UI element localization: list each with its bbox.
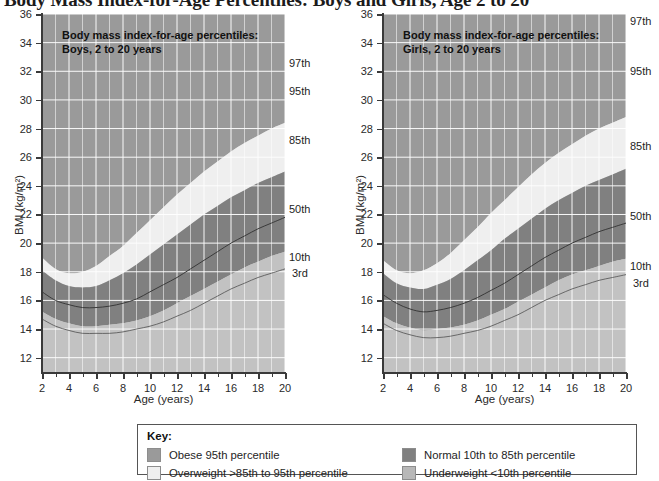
x-tick bbox=[56, 373, 58, 377]
y-tick bbox=[36, 100, 42, 102]
y-tick bbox=[377, 300, 383, 302]
y-tick-label: 34 bbox=[4, 38, 32, 49]
y-tick bbox=[36, 157, 42, 159]
x-tick bbox=[383, 373, 385, 379]
x-tick bbox=[245, 373, 247, 377]
x-tick bbox=[437, 373, 439, 379]
x-tick bbox=[424, 373, 426, 377]
y-tick-label: 32 bbox=[4, 66, 32, 77]
x-tick bbox=[545, 373, 547, 379]
x-tick bbox=[177, 373, 179, 379]
y-tick bbox=[36, 329, 42, 331]
y-tick-label: 18 bbox=[345, 267, 373, 278]
x-tick bbox=[505, 373, 507, 377]
x-tick bbox=[110, 373, 112, 377]
y-tick bbox=[377, 329, 383, 331]
x-tick bbox=[150, 373, 152, 379]
legend-swatch-obese bbox=[147, 448, 161, 462]
legend-label-obese: Obese 95th percentile bbox=[169, 449, 280, 461]
plot-caption-girls: Body mass index-for-age percentiles: Gir… bbox=[403, 28, 599, 56]
legend-label-normal: Normal 10th to 85th percentile bbox=[424, 449, 575, 461]
x-tick bbox=[532, 373, 534, 377]
x-axis-title-boys: Age (years) bbox=[42, 393, 285, 405]
percentile-label-girls-85th: 85th bbox=[630, 141, 651, 152]
x-tick bbox=[42, 373, 44, 379]
percentile-label-boys-3rd: 3rd bbox=[292, 268, 308, 279]
y-tick bbox=[377, 71, 383, 73]
y-tick-label: 12 bbox=[4, 353, 32, 364]
percentile-label-boys-95th: 95th bbox=[289, 86, 310, 97]
y-tick bbox=[377, 214, 383, 216]
chart-panel-boys: 1214161820222426283032343624681012141618… bbox=[0, 0, 330, 410]
y-axis-title-boys: BMI (kg/m²) bbox=[13, 175, 25, 235]
y-tick bbox=[36, 358, 42, 360]
y-tick-label: 30 bbox=[345, 95, 373, 106]
y-tick bbox=[377, 14, 383, 16]
x-tick bbox=[613, 373, 615, 377]
percentile-label-girls-50th: 50th bbox=[630, 211, 651, 222]
x-tick bbox=[164, 373, 166, 377]
plot-area-boys bbox=[42, 14, 285, 372]
x-tick bbox=[272, 373, 274, 377]
y-tick bbox=[377, 358, 383, 360]
y-tick bbox=[36, 43, 42, 45]
y-tick-label: 30 bbox=[4, 95, 32, 106]
x-tick bbox=[123, 373, 125, 379]
y-tick bbox=[36, 14, 42, 16]
y-tick bbox=[377, 186, 383, 188]
y-tick-label: 32 bbox=[345, 66, 373, 77]
x-tick bbox=[518, 373, 520, 379]
y-tick-label: 34 bbox=[345, 38, 373, 49]
percentile-label-boys-50th: 50th bbox=[289, 204, 310, 215]
chart-panel-girls: 1214161820222426283032343624681012141618… bbox=[329, 0, 659, 410]
x-tick bbox=[464, 373, 466, 379]
percentile-label-girls-97th: 97th bbox=[630, 16, 651, 27]
percentile-label-girls-10th: 10th bbox=[630, 261, 651, 272]
y-tick bbox=[36, 243, 42, 245]
percentile-label-boys-10th: 10th bbox=[289, 252, 310, 263]
legend-swatch-normal bbox=[402, 448, 416, 462]
y-tick-label: 26 bbox=[4, 152, 32, 163]
y-tick bbox=[36, 129, 42, 131]
y-tick bbox=[377, 272, 383, 274]
x-tick bbox=[96, 373, 98, 379]
y-axis-line-boys bbox=[41, 13, 43, 373]
y-tick bbox=[377, 100, 383, 102]
x-tick bbox=[258, 373, 260, 379]
x-tick bbox=[218, 373, 220, 377]
y-tick-label: 28 bbox=[4, 124, 32, 135]
y-tick-label: 18 bbox=[4, 267, 32, 278]
x-axis-title-girls: Age (years) bbox=[383, 393, 626, 405]
y-tick-label: 20 bbox=[4, 238, 32, 249]
y-tick bbox=[36, 214, 42, 216]
legend-swatch-overweight bbox=[147, 466, 161, 480]
x-tick bbox=[83, 373, 85, 377]
x-tick bbox=[137, 373, 139, 377]
x-tick bbox=[559, 373, 561, 377]
x-tick bbox=[285, 373, 287, 379]
y-tick-label: 16 bbox=[4, 295, 32, 306]
legend-label-underweight: Underweight <10th percentile bbox=[424, 467, 571, 479]
plot-caption-boys-line1: Body mass index-for-age percentiles: bbox=[62, 28, 258, 42]
y-tick-label: 12 bbox=[345, 353, 373, 364]
y-tick bbox=[36, 186, 42, 188]
percentile-label-girls-3rd: 3rd bbox=[633, 278, 649, 289]
percentile-label-boys-85th: 85th bbox=[289, 135, 310, 146]
y-tick bbox=[36, 71, 42, 73]
legend-swatch-underweight bbox=[402, 466, 416, 480]
chart-svg-boys bbox=[42, 14, 285, 372]
legend-label-overweight: Overweight >85th to 95th percentile bbox=[169, 467, 348, 479]
y-tick bbox=[377, 243, 383, 245]
x-tick bbox=[397, 373, 399, 377]
y-tick bbox=[36, 300, 42, 302]
x-tick bbox=[626, 373, 628, 379]
y-tick-label: 20 bbox=[345, 238, 373, 249]
plot-caption-girls-line1: Body mass index-for-age percentiles: bbox=[403, 28, 599, 42]
percentile-label-boys-97th: 97th bbox=[289, 58, 310, 69]
y-tick-label: 14 bbox=[345, 324, 373, 335]
x-tick bbox=[231, 373, 233, 379]
x-tick bbox=[410, 373, 412, 379]
y-tick-label: 36 bbox=[4, 9, 32, 20]
legend-title: Key: bbox=[147, 430, 172, 442]
